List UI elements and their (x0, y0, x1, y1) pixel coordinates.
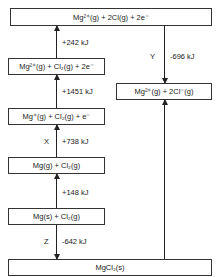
energy-label: -696 kJ (170, 52, 195, 61)
arrow-up-icon (56, 174, 57, 208)
step-letter: Y (150, 52, 155, 61)
arrow-up-icon (56, 125, 57, 157)
level-label: Mg²⁺(g) + Cl₂(g) + 2e⁻ (19, 62, 94, 71)
energy-label: +148 kJ (62, 188, 88, 197)
energy-label: +738 kJ (62, 137, 88, 146)
level-label: Mg(s) + Cl₂(g) (33, 212, 80, 221)
level-mg-solid: Mg(s) + Cl₂(g) (8, 208, 105, 225)
arrow-up-icon (164, 100, 165, 259)
arrow-up-icon (56, 26, 57, 58)
energy-label: +1451 kJ (62, 87, 93, 96)
level-label: Mg²⁺(g) + 2Cl⁻(g) (134, 87, 193, 96)
level-mg-gas: Mg(g) + Cl₂(g) (8, 157, 105, 174)
energy-label: -642 kJ (62, 237, 87, 246)
level-mg2plus: Mg²⁺(g) + Cl₂(g) + 2e⁻ (8, 58, 105, 75)
step-letter: Z (44, 237, 49, 246)
level-label: Mg(g) + Cl₂(g) (33, 161, 80, 170)
energy-label: +242 kJ (62, 38, 88, 47)
level-ions: Mg²⁺(g) + 2Cl⁻(g) (116, 83, 212, 100)
arrow-up-icon (56, 75, 57, 108)
level-label: Mg⁺(g) + Cl₂(g) + e⁻ (22, 112, 90, 121)
step-letter: X (44, 137, 49, 146)
arrow-down-icon (56, 225, 57, 259)
arrow-down-icon (164, 26, 165, 83)
level-mgcl2: MgCl₂(s) (8, 259, 212, 276)
level-label: MgCl₂(s) (95, 263, 124, 272)
level-top: Mg²⁺(g) + 2Cl(g) + 2e⁻ (10, 8, 212, 26)
level-label: Mg²⁺(g) + 2Cl(g) + 2e⁻ (73, 13, 149, 22)
level-mgplus: Mg⁺(g) + Cl₂(g) + e⁻ (8, 108, 105, 125)
